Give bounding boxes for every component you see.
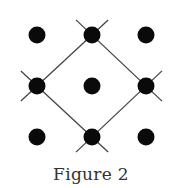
lattice-diagram bbox=[0, 0, 182, 188]
lattice-dot-center bbox=[84, 78, 101, 95]
lattice-dot-bottom-right bbox=[138, 129, 155, 146]
lattice-dot-top-left bbox=[29, 27, 46, 44]
lattice-dot-bottom-left bbox=[29, 129, 46, 146]
lattice-dot-middle-left bbox=[29, 78, 46, 95]
lattice-dot-middle-right bbox=[138, 78, 155, 95]
lattice-dot-bottom-center bbox=[84, 129, 101, 146]
lattice-dot-top-center bbox=[84, 27, 101, 44]
lattice-dots bbox=[29, 27, 155, 146]
lattice-dot-top-right bbox=[138, 27, 155, 44]
figure-caption: Figure 2 bbox=[0, 164, 182, 184]
